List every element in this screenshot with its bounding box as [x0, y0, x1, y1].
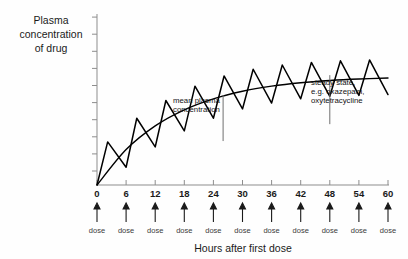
dose-label: dose	[89, 226, 105, 235]
dose-arrow-head-icon	[152, 203, 158, 209]
annotation-steady-line-1: steady state,	[311, 78, 355, 87]
x-tick-label: 48	[325, 188, 336, 199]
dose-arrow-head-icon	[210, 203, 216, 209]
dose-arrow-head-icon	[181, 203, 187, 209]
y-axis-label-line-3: of drug	[35, 42, 68, 54]
dose-arrow-head-icon	[327, 203, 333, 209]
dose-label: dose	[351, 226, 367, 235]
x-tick-label: 36	[266, 188, 277, 199]
dose-label: dose	[263, 226, 279, 235]
annotation-mean-line-2: concentration	[173, 105, 220, 114]
dose-label: dose	[205, 226, 221, 235]
dose-label: dose	[322, 226, 338, 235]
x-tick-label: 30	[237, 188, 248, 199]
annotation-mean-plasma-concentration: mean plasma concentration	[173, 95, 223, 141]
dose-label: dose	[234, 226, 250, 235]
annotation-mean-line-1: mean plasma	[173, 96, 220, 105]
y-axis-label-line-2: concentration	[19, 28, 82, 40]
annotation-steady-state: steady state, e.g. oxazepam, oxytetracyc…	[311, 75, 364, 124]
dose-label: dose	[118, 226, 134, 235]
dose-arrow-head-icon	[269, 203, 275, 209]
pharmacokinetics-chart: Plasma concentration of drug 0dose6dose1…	[0, 0, 408, 259]
dose-label: dose	[380, 226, 396, 235]
dose-arrow-head-icon	[356, 203, 362, 209]
dose-arrow-head-icon	[298, 203, 304, 209]
annotation-steady-line-2: e.g. oxazepam,	[311, 87, 364, 96]
dose-arrow-head-icon	[385, 203, 391, 209]
x-tick-label: 42	[295, 188, 306, 199]
x-tick-label: 54	[354, 188, 365, 199]
y-axis-ticks	[92, 17, 97, 171]
dose-label: dose	[147, 226, 163, 235]
x-axis-ticks-and-labels: 0dose6dose12dose18dose24dose30dose36dose…	[89, 180, 396, 235]
annotation-steady-line-3: oxytetracycline	[311, 96, 363, 105]
dose-arrow-head-icon	[123, 203, 129, 209]
dose-arrow-head-icon	[94, 203, 100, 209]
y-axis-label-line-1: Plasma	[33, 14, 68, 26]
x-tick-label: 18	[179, 188, 190, 199]
chart-page: Plasma concentration of drug 0dose6dose1…	[0, 0, 408, 259]
dose-label: dose	[293, 226, 309, 235]
dose-arrow-head-icon	[240, 203, 246, 209]
x-tick-label: 24	[208, 188, 219, 199]
x-tick-label: 6	[123, 188, 128, 199]
y-axis-label: Plasma concentration of drug	[19, 14, 82, 54]
x-axis-label: Hours after first dose	[194, 242, 292, 254]
dose-label: dose	[176, 226, 192, 235]
x-tick-label: 12	[150, 188, 161, 199]
x-tick-label: 0	[94, 188, 99, 199]
x-tick-label: 60	[383, 188, 394, 199]
